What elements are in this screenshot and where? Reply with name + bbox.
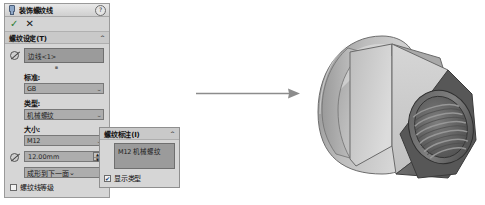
show-type-checkbox[interactable]: ✔: [104, 175, 111, 182]
property-manager-panel: 装饰螺纹线 ? ✓ ✕ 螺纹设定(T) ⌃ 边线<1> ▪ 标准: GB ⌄ 类…: [4, 3, 110, 198]
thread-callout-section-header[interactable]: 螺纹标注(I) ⌃: [100, 128, 179, 140]
confirm-button[interactable]: ✓: [10, 19, 18, 29]
type-value: 机械螺纹: [27, 110, 97, 120]
standard-value: GB: [27, 85, 97, 93]
depth-row: 12.00mm ▲ ▼: [10, 150, 104, 163]
thread-callout-label: 螺纹标注(I): [104, 129, 170, 139]
thread-icon: [8, 5, 16, 15]
chevron-up-icon[interactable]: ⌃: [169, 130, 176, 137]
panel-titlebar: 装饰螺纹线 ?: [5, 4, 109, 17]
edge-select-icon: [10, 50, 21, 61]
type-dropdown[interactable]: 机械螺纹 ⌄: [24, 109, 104, 120]
thread-settings-section-header[interactable]: 螺纹设定(T) ⌃: [5, 32, 109, 44]
panel-title: 装饰螺纹线: [19, 5, 95, 15]
thread-callout-textarea[interactable]: M12 机械螺纹: [114, 143, 175, 169]
show-type-label: 显示类型: [114, 173, 141, 183]
thread-settings-label: 螺纹设定(T): [9, 33, 100, 43]
help-icon[interactable]: ?: [95, 5, 106, 16]
chevron-down-icon[interactable]: ⌄: [96, 112, 102, 118]
thread-callout-body: M12 机械螺纹 ✔ 显示类型: [100, 140, 179, 187]
thread-class-row[interactable]: 螺纹线等级: [10, 182, 104, 192]
resize-grip[interactable]: ▪: [10, 65, 104, 69]
result-arrow: [196, 88, 300, 99]
thread-class-checkbox[interactable]: [10, 184, 17, 191]
standard-dropdown[interactable]: GB ⌄: [24, 83, 104, 94]
thread-callout-panel: 螺纹标注(I) ⌃ M12 机械螺纹 ✔ 显示类型: [99, 127, 180, 188]
depth-icon: [10, 152, 21, 163]
depth-value: 12.00mm: [28, 153, 93, 161]
edge-selection-row: 边线<1>: [10, 48, 104, 63]
cancel-button[interactable]: ✕: [25, 19, 33, 29]
size-value: M12: [27, 137, 97, 145]
standard-label: 标准:: [24, 72, 104, 82]
end-condition-dropdown[interactable]: 成形到下一面 ⌄: [24, 167, 104, 178]
chevron-down-icon[interactable]: ⌄: [96, 86, 102, 92]
type-label: 类型:: [24, 98, 104, 108]
thread-settings-body: 边线<1> ▪ 标准: GB ⌄ 类型: 机械螺纹 ⌄ 大小: M12 ⌄ 12…: [5, 44, 109, 197]
thread-class-label: 螺纹线等级: [20, 182, 54, 192]
panel-action-bar: ✓ ✕: [5, 17, 109, 32]
cap-nut-3d-model: [300, 14, 482, 204]
chevron-down-icon[interactable]: ⌄: [69, 169, 75, 177]
end-condition-value: 成形到下一面: [27, 168, 69, 178]
show-type-row[interactable]: ✔ 显示类型: [104, 173, 175, 183]
size-label: 大小:: [24, 124, 104, 134]
size-dropdown[interactable]: M12 ⌄: [24, 135, 104, 146]
chevron-up-icon[interactable]: ⌃: [99, 34, 106, 41]
depth-input[interactable]: 12.00mm ▲ ▼: [24, 151, 104, 162]
edge-selection-input[interactable]: 边线<1>: [24, 48, 104, 63]
